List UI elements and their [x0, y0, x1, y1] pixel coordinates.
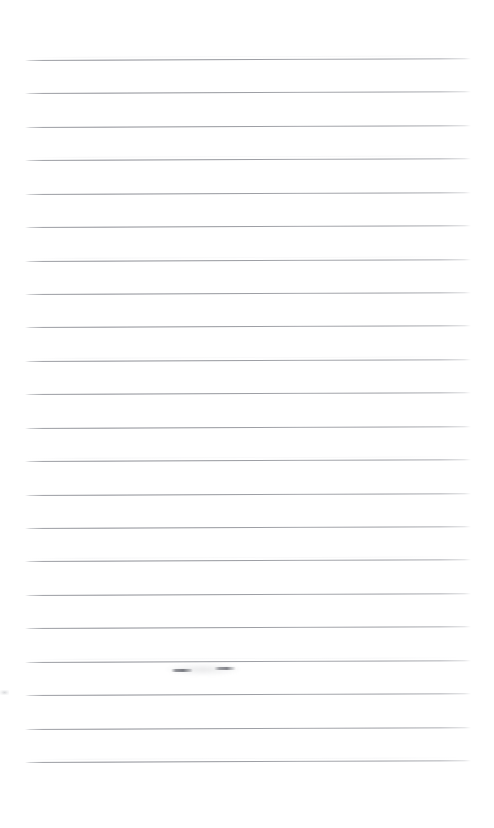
rule-line	[25, 91, 471, 94]
rule-line	[25, 158, 471, 161]
rule-line	[25, 559, 471, 562]
rule-line	[25, 359, 471, 362]
rule-line	[25, 459, 471, 462]
rule-line	[25, 325, 471, 328]
rule-line	[25, 626, 471, 629]
rule-line	[25, 660, 471, 663]
rule-line	[25, 259, 471, 262]
rule-line	[25, 593, 471, 596]
rule-line	[25, 125, 471, 128]
rule-line	[25, 292, 471, 295]
ruled-lines-layer	[0, 0, 494, 828]
rule-line	[25, 727, 471, 730]
rule-line	[25, 426, 471, 429]
rule-line	[25, 526, 471, 529]
rule-line	[25, 760, 471, 763]
rule-line	[25, 192, 471, 195]
rule-line	[25, 225, 471, 228]
rule-line	[25, 693, 471, 696]
rule-line	[25, 58, 471, 61]
rule-line	[25, 392, 471, 395]
rule-line	[25, 493, 471, 496]
scanned-page	[0, 0, 494, 828]
bottom-blank-margin	[0, 786, 494, 828]
